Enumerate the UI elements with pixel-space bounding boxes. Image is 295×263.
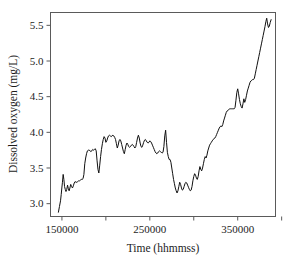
y-axis-title: Dissolved oxygen (mg/L) xyxy=(7,55,20,173)
line-chart-svg: 3.03.54.04.55.05.5 150000250000350000 Ti… xyxy=(0,0,295,263)
y-tick-label: 5.0 xyxy=(30,55,44,67)
y-tick-label: 3.0 xyxy=(30,197,44,209)
plot-frame xyxy=(51,13,276,217)
x-tick-label: 150000 xyxy=(45,223,79,235)
x-tick-label: 350000 xyxy=(221,223,255,235)
x-axis-title: Time (hhmmss) xyxy=(127,242,200,255)
y-tick-label: 5.5 xyxy=(30,19,44,31)
data-series-line xyxy=(58,18,271,212)
y-tick-label: 3.5 xyxy=(30,162,44,174)
y-tick-label: 4.5 xyxy=(30,90,44,102)
x-axis-ticks: 150000250000350000 xyxy=(45,217,281,235)
y-axis-ticks: 3.03.54.04.55.05.5 xyxy=(30,19,51,209)
x-tick-label: 250000 xyxy=(133,223,167,235)
chart-figure: 3.03.54.04.55.05.5 150000250000350000 Ti… xyxy=(0,0,295,263)
y-tick-label: 4.0 xyxy=(30,126,44,138)
